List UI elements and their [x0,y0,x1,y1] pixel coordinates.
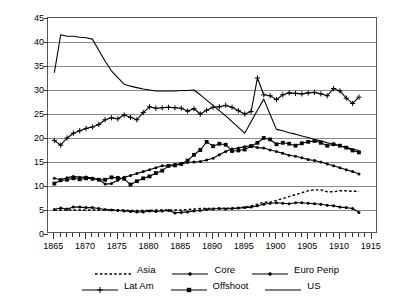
data-point [326,204,329,207]
data-series-layer [48,18,378,234]
data-point [224,143,228,147]
x-tick-mark [269,233,270,237]
x-tick-label: 1880 [139,241,159,251]
data-point [78,206,81,209]
data-point [78,177,82,181]
data-point [319,161,322,164]
data-point [110,175,114,179]
data-point [103,178,107,182]
data-point [255,75,260,80]
data-point [160,169,164,173]
data-point [300,201,303,204]
y-tick-label: 30 [34,86,44,95]
data-point [198,148,202,152]
x-tick-mark [352,233,353,237]
x-tick-label: 1895 [234,241,254,251]
x-tick-label: 1870 [75,241,95,251]
data-point [281,141,285,145]
data-point [281,202,284,205]
x-tick-mark [231,233,232,237]
y-tick-label: 25 [34,110,44,119]
x-tick-mark [218,233,219,237]
legend-item-asia[interactable]: Asia [94,265,155,275]
data-point [104,183,107,186]
x-tick-mark [142,233,143,237]
x-tick-mark [358,233,359,237]
x-tick-label: 1890 [202,241,222,251]
data-point [237,207,240,210]
data-point [53,208,56,211]
data-point [199,160,202,163]
data-point [91,177,95,181]
data-point [231,207,234,210]
y-axis-label: Unweighted Average Tariff (%) [5,0,16,27]
x-tick-label: 1905 [297,241,317,251]
x-tick-label: 1885 [170,241,190,251]
x-tick-label: 1875 [107,241,127,251]
data-point [166,105,171,110]
x-tick-mark [326,233,327,237]
x-tick-mark [136,233,137,237]
x-tick-mark [339,233,340,239]
x-tick-mark [161,233,162,237]
data-point [205,159,208,162]
legend-label: US [307,281,320,291]
x-tick-mark [174,233,175,237]
data-point [154,171,158,175]
data-point [97,178,101,182]
x-tick-mark [104,233,105,237]
data-point [224,208,227,211]
legend-item-core[interactable]: Core [171,265,235,275]
data-point [148,209,151,212]
data-point [66,208,69,211]
legend-item-lat-am[interactable]: Lat Am [81,281,154,291]
data-point [248,109,253,114]
data-point [173,211,176,214]
y-axis-label-container: Unweighted Average Tariff (%) [8,17,22,233]
data-point [128,115,133,120]
data-point [351,170,354,173]
data-point [357,173,360,176]
x-tick-mark [85,233,86,239]
data-point [275,150,278,153]
data-point [59,178,63,182]
data-point [135,210,138,213]
data-point [122,112,127,117]
y-tick-label: 35 [34,62,44,71]
data-point [269,202,272,205]
x-tick-mark [371,233,372,239]
data-point [192,161,195,164]
data-point [313,159,316,162]
data-point [224,150,227,153]
x-tick-mark [110,233,111,237]
data-point [85,206,88,209]
data-point [129,210,132,213]
data-point [77,128,82,133]
legend-row-1: AsiaCoreEuro Perip [47,262,396,277]
x-tick-mark [263,233,264,237]
legend-marker-icon [251,265,289,275]
x-tick-mark [66,233,67,237]
data-point [97,207,100,210]
data-point [299,91,304,96]
data-point [307,202,310,205]
data-point [294,155,297,158]
legend-item-us[interactable]: US [264,281,320,291]
legend-label: Euro Perip [294,265,339,275]
x-tick-mark [314,233,315,237]
x-tick-mark [117,233,118,239]
data-point [242,111,247,116]
data-point [268,138,272,142]
data-point [141,176,145,180]
legend-item-euro-perip[interactable]: Euro Perip [251,265,339,275]
data-point [345,168,348,171]
y-tick-label: 0 [39,230,44,239]
legend-label: Offshoot [213,281,249,291]
x-tick-mark [301,233,302,237]
data-point [135,172,138,175]
data-point [83,126,88,131]
data-point [110,182,113,185]
x-tick-label: 1910 [329,241,349,251]
data-point [142,170,145,173]
legend-item-offshoot[interactable]: Offshoot [170,281,249,291]
